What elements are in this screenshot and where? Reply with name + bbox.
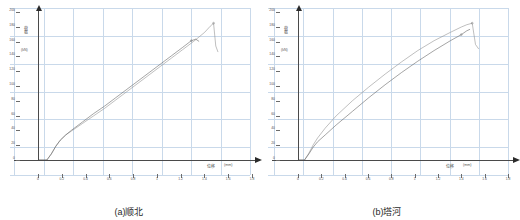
y-axis-tick xyxy=(16,27,20,28)
y-axis-title-a: 荷载 xyxy=(22,26,28,35)
x-axis-tick-label: 1 xyxy=(414,178,416,181)
y-axis-tick-label: 0 xyxy=(266,157,275,160)
y-axis-tick-label: 100 xyxy=(6,83,15,86)
y-axis-tick-label: 200 xyxy=(266,9,275,12)
y-axis-tick xyxy=(16,101,20,102)
y-axis-tick xyxy=(16,12,20,13)
y-axis-tick xyxy=(276,101,280,102)
x-axis-tick-label: 1.2 xyxy=(178,178,183,181)
y-axis-tick xyxy=(276,56,280,57)
y-axis-line xyxy=(298,10,299,160)
y-axis-tick xyxy=(16,116,20,117)
x-axis-tick-label: 1.4 xyxy=(202,178,207,181)
y-axis-tick xyxy=(276,42,280,43)
y-axis-tick-label: 80 xyxy=(6,98,15,101)
x-axis-title-a: 位移 xyxy=(207,163,215,169)
x-axis-tick-label: 1.6 xyxy=(226,178,231,181)
y-axis-tick-label: 20 xyxy=(266,142,275,145)
y-axis-tick xyxy=(276,71,280,72)
y-axis-title-b: 荷载 xyxy=(282,26,288,35)
y-axis-tick-label: 140 xyxy=(6,54,15,57)
x-axis-tick-label: 1.4 xyxy=(459,178,464,181)
y-axis-tick-label: 120 xyxy=(266,68,275,71)
x-axis-tick-label: 1.8 xyxy=(506,178,511,181)
y-axis-tick xyxy=(16,160,20,161)
x-axis-line xyxy=(272,160,516,161)
y-axis-tick-label: 120 xyxy=(6,68,15,71)
y-axis-tick-label: 60 xyxy=(6,113,15,116)
y-axis-tick-label: 40 xyxy=(266,128,275,131)
x-axis-unit-a: (mm) xyxy=(224,163,232,167)
y-axis-tick-label: 0 xyxy=(6,157,15,160)
y-axis-tick xyxy=(276,130,280,131)
panel-caption-a: (a)顺北 xyxy=(0,205,258,218)
curves-b xyxy=(258,0,516,192)
y-axis-tick xyxy=(276,145,280,146)
x-axis-title-b: 位移 xyxy=(446,163,454,169)
x-axis-tick-label: 0.6 xyxy=(366,178,371,181)
y-axis-tick-label: 20 xyxy=(6,142,15,145)
y-axis-tick-label: 180 xyxy=(6,24,15,27)
y-axis-tick-label: 40 xyxy=(6,128,15,131)
x-axis-tick-label: 0.4 xyxy=(83,178,88,181)
x-axis-tick-label: 0 xyxy=(37,178,39,181)
x-axis-arrow-icon xyxy=(513,157,520,163)
y-axis-tick-label: 160 xyxy=(6,39,15,42)
y-axis-tick-label: 80 xyxy=(266,98,275,101)
x-axis-tick-label: 1.8 xyxy=(250,178,255,181)
x-axis-tick-label: 0.4 xyxy=(342,178,347,181)
y-axis-tick xyxy=(276,86,280,87)
y-axis-tick-label: 160 xyxy=(266,39,275,42)
panel-a: 02040608010012014016018020000.20.40.60.8… xyxy=(0,0,258,220)
y-axis-tick xyxy=(276,116,280,117)
y-axis-tick xyxy=(16,145,20,146)
x-axis-tick-label: 0 xyxy=(297,178,299,181)
x-axis-tick-label: 0.2 xyxy=(59,178,64,181)
y-axis-tick xyxy=(16,130,20,131)
y-axis-tick xyxy=(16,42,20,43)
x-axis-tick-label: 0.8 xyxy=(389,178,394,181)
y-axis-unit-a: (kN) xyxy=(21,48,28,52)
y-axis-tick xyxy=(276,160,280,161)
y-axis-tick-label: 140 xyxy=(266,54,275,57)
x-axis-tick-label: 1.2 xyxy=(436,178,441,181)
x-axis-tick-label: 0.8 xyxy=(131,178,136,181)
data-series-line xyxy=(298,23,479,160)
y-axis-tick xyxy=(16,71,20,72)
x-axis-tick-label: 0.2 xyxy=(319,178,324,181)
y-axis-line xyxy=(38,10,39,160)
y-axis-tick-label: 200 xyxy=(6,9,15,12)
x-axis-tick-label: 0.6 xyxy=(107,178,112,181)
y-axis-tick xyxy=(16,86,20,87)
y-axis-tick xyxy=(276,27,280,28)
y-axis-tick xyxy=(276,12,280,13)
y-axis-tick-label: 180 xyxy=(266,24,275,27)
y-axis-tick xyxy=(16,56,20,57)
data-series-line xyxy=(38,39,199,160)
y-axis-tick-label: 100 xyxy=(266,83,275,86)
x-axis-unit-b: (mm) xyxy=(463,163,471,167)
x-axis-tick-label: 1 xyxy=(156,178,158,181)
x-axis-line xyxy=(14,160,258,161)
panel-b: 02040608010012014016018020000.20.40.60.8… xyxy=(258,0,516,220)
y-axis-tick-label: 60 xyxy=(266,113,275,116)
panel-caption-b: (b)塔河 xyxy=(258,205,516,218)
y-axis-arrow-icon xyxy=(296,5,302,11)
y-axis-arrow-icon xyxy=(36,5,42,11)
plot-area-b: 02040608010012014016018020000.20.40.60.8… xyxy=(258,0,516,192)
data-series-line xyxy=(38,23,218,160)
data-series-line xyxy=(298,29,470,160)
y-axis-unit-b: (kN) xyxy=(281,48,288,52)
plot-area-a: 02040608010012014016018020000.20.40.60.8… xyxy=(0,0,258,192)
x-axis-tick-label: 1.6 xyxy=(482,178,487,181)
